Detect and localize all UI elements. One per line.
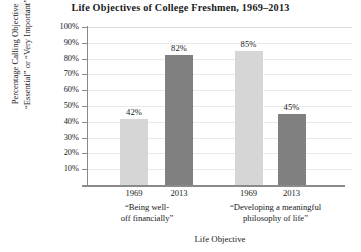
y-tick-mark bbox=[82, 153, 88, 154]
bar-value-label: 45% bbox=[269, 103, 315, 112]
gridline bbox=[88, 74, 352, 75]
y-tick-mark bbox=[82, 43, 88, 44]
bar-1-2013 bbox=[278, 114, 306, 185]
group-label-line-2: philosophy of life” bbox=[208, 213, 343, 224]
bar-value-label: 42% bbox=[111, 108, 157, 117]
bar-value-label: 82% bbox=[156, 44, 202, 53]
gridline bbox=[88, 27, 352, 28]
bar-value-label: 85% bbox=[226, 40, 272, 49]
group-label-line-1: “Being well- bbox=[98, 202, 196, 213]
y-tick-label: 100% bbox=[39, 23, 79, 31]
y-tick-label: 40% bbox=[39, 118, 79, 126]
x-tick-label-1969: 1969 bbox=[226, 188, 272, 198]
y-axis-title-line-2: “Essential” or “Very Important” bbox=[21, 0, 33, 139]
x-axis-line bbox=[82, 185, 345, 187]
y-tick-mark bbox=[82, 27, 88, 28]
y-tick-mark bbox=[82, 122, 88, 123]
y-tick-mark bbox=[82, 138, 88, 139]
group-label-developing-a-meaningful-philosophy-of-life: “Developing a meaningful philosophy of l… bbox=[208, 202, 343, 225]
y-tick-mark bbox=[82, 90, 88, 91]
y-tick-mark bbox=[82, 74, 88, 75]
gridline bbox=[88, 90, 352, 91]
bar-0-2013 bbox=[165, 55, 193, 185]
y-tick-mark bbox=[82, 106, 88, 107]
group-label-line-1: “Developing a meaningful bbox=[208, 202, 343, 213]
y-tick-label: 50% bbox=[39, 102, 79, 110]
gridline bbox=[88, 43, 352, 44]
chart-title: Life Objectives of College Freshmen, 196… bbox=[0, 2, 361, 13]
y-tick-label: 10% bbox=[39, 165, 79, 173]
y-tick-label: 20% bbox=[39, 149, 79, 157]
bar-1-1969 bbox=[235, 51, 263, 185]
gridline bbox=[88, 59, 352, 60]
y-tick-mark bbox=[82, 59, 88, 60]
y-tick-label: 90% bbox=[39, 39, 79, 47]
y-tick-label: 60% bbox=[39, 86, 79, 94]
y-axis-title-line-1: Percentage Calling Objective bbox=[9, 0, 21, 139]
bar-0-1969 bbox=[120, 119, 148, 185]
y-tick-mark bbox=[82, 169, 88, 170]
y-tick-label: 30% bbox=[39, 134, 79, 142]
y-tick-label: 80% bbox=[39, 55, 79, 63]
y-tick-label: 70% bbox=[39, 70, 79, 78]
x-tick-label-1969: 1969 bbox=[111, 188, 157, 198]
x-axis-title: Life Objective bbox=[88, 234, 352, 244]
x-tick-label-2013: 2013 bbox=[269, 188, 315, 198]
y-axis-title: Percentage Calling Objective “Essential”… bbox=[9, 0, 35, 139]
group-label-being-well-off-financially: “Being well- off financially” bbox=[98, 202, 196, 225]
x-tick-label-2013: 2013 bbox=[156, 188, 202, 198]
group-label-line-2: off financially” bbox=[98, 213, 196, 224]
